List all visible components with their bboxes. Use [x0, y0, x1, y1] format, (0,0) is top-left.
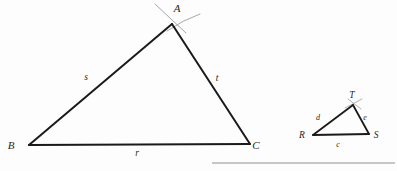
- triangle-rst-group: T R S d e c: [298, 90, 379, 149]
- side-label-t: t: [216, 73, 219, 83]
- vertex-label-b: B: [8, 139, 15, 151]
- side-s-line: [29, 24, 172, 145]
- side-label-c: c: [336, 140, 340, 149]
- vertex-label-s: S: [374, 130, 379, 140]
- triangle-abc-group: A B C s t r: [8, 2, 261, 158]
- side-r-line: [29, 144, 250, 145]
- side-t-line: [172, 24, 250, 144]
- vertex-label-r: R: [298, 130, 305, 140]
- side-label-r: r: [135, 148, 139, 158]
- vertex-label-a: A: [173, 2, 181, 14]
- side-label-s: s: [84, 72, 88, 82]
- vertex-label-t: T: [349, 90, 355, 100]
- construction-arc-right-icon: [167, 14, 200, 31]
- side-label-e: e: [363, 113, 367, 122]
- vertex-label-c: C: [252, 139, 260, 151]
- diagram-canvas: A B C s t r T R S d e c: [0, 0, 397, 171]
- side-c-line: [313, 134, 369, 135]
- side-label-d: d: [316, 113, 321, 122]
- geometry-figure: A B C s t r T R S d e c: [0, 0, 397, 171]
